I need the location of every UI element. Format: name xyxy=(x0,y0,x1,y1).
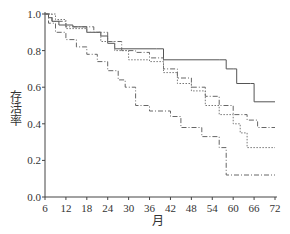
x-tick-label: 18 xyxy=(81,202,93,214)
y-tick-label: 0.8 xyxy=(27,45,41,57)
x-tick-label: 6 xyxy=(42,202,48,214)
y-tick-label: 1.0 xyxy=(27,8,41,20)
axes: 612182430364248546066720.00.20.40.60.81.… xyxy=(27,8,280,214)
survival-curve xyxy=(45,14,275,175)
series-group xyxy=(45,14,275,175)
y-axis-label: 存活率 xyxy=(7,90,21,126)
x-tick-label: 12 xyxy=(60,202,71,214)
x-tick-label: 54 xyxy=(207,202,219,214)
x-tick-label: 48 xyxy=(186,202,198,214)
x-tick-label: 30 xyxy=(123,202,135,214)
x-tick-label: 42 xyxy=(165,202,176,214)
survival-chart: 612182430364248546066720.00.20.40.60.81.… xyxy=(0,0,290,234)
x-tick-label: 36 xyxy=(144,202,156,214)
y-tick-label: 0.4 xyxy=(27,118,41,130)
y-tick-label: 0.2 xyxy=(27,154,41,166)
x-axis-label: 月 xyxy=(152,214,164,228)
x-tick-label: 72 xyxy=(270,202,281,214)
x-tick-label: 60 xyxy=(228,202,240,214)
x-tick-label: 24 xyxy=(102,202,114,214)
y-tick-label: 0.6 xyxy=(27,81,41,93)
x-tick-label: 66 xyxy=(249,202,261,214)
survival-curve xyxy=(45,14,275,148)
y-tick-label: 0.0 xyxy=(27,191,41,203)
survival-curve xyxy=(45,14,275,128)
